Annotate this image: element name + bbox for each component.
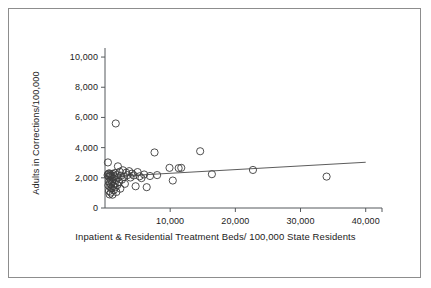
trend-line	[112, 162, 366, 176]
x-axis-title: Inpatient & Residential Treatment Beds/ …	[0, 231, 431, 242]
y-tick-label: 2,000	[50, 173, 98, 183]
data-point	[154, 171, 161, 178]
x-tick-label: 40,000	[352, 216, 380, 226]
y-tick-label: 6,000	[50, 112, 98, 122]
x-tick-label: 20,000	[221, 216, 249, 226]
data-point	[208, 171, 215, 178]
y-tick-label: 10,000	[50, 52, 98, 62]
y-tick-label: 4,000	[50, 143, 98, 153]
data-point	[112, 120, 119, 127]
data-point	[323, 173, 330, 180]
data-point	[169, 177, 176, 184]
data-point	[197, 148, 204, 155]
data-points	[104, 120, 330, 198]
x-tick-marks	[170, 208, 382, 212]
figure-container: 02,0004,0006,0008,00010,000 10,00020,000…	[0, 0, 431, 288]
x-tick-label: 30,000	[286, 216, 314, 226]
y-axis-title: Adults in Corrections/100,000	[31, 53, 41, 213]
data-point	[249, 166, 256, 173]
y-tick-label: 0	[50, 203, 98, 213]
data-point	[151, 149, 158, 156]
y-tick-label: 8,000	[50, 82, 98, 92]
data-point	[143, 184, 150, 191]
x-tick-label: 10,000	[156, 216, 184, 226]
data-point	[166, 164, 173, 171]
data-point	[132, 183, 139, 190]
